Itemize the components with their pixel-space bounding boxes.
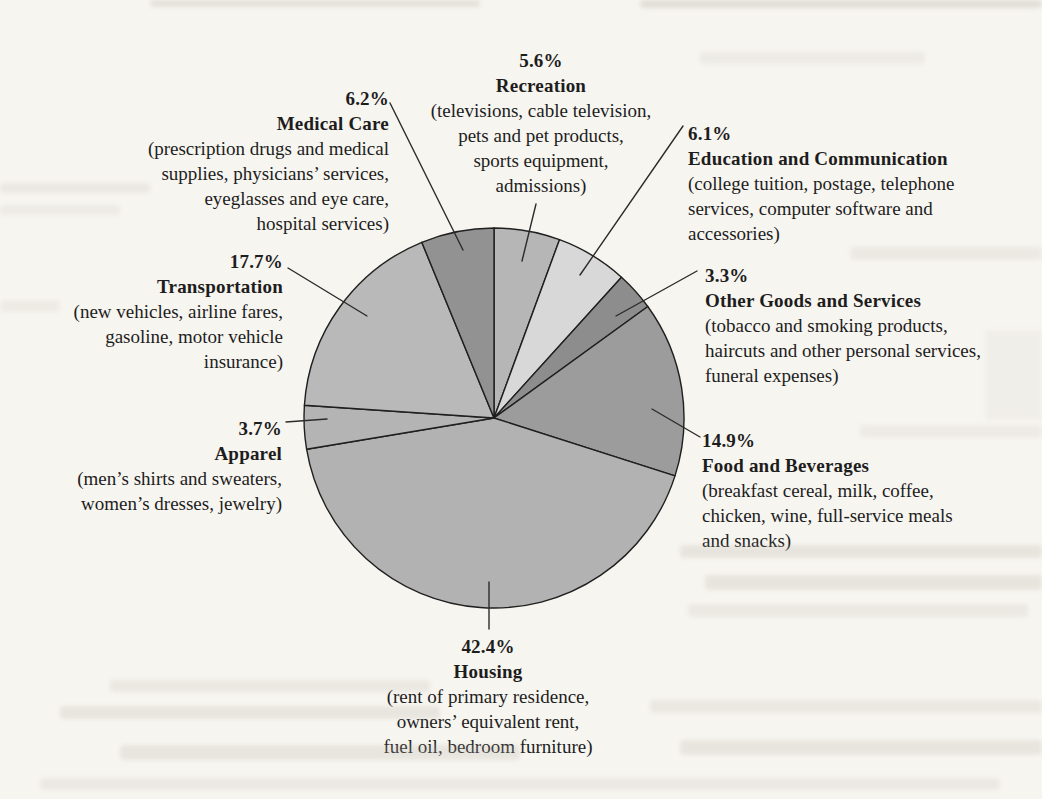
slice-detail-line: pets and pet products, <box>391 123 691 148</box>
slice-name: Transportation <box>23 274 283 299</box>
slice-detail-line: accessories) <box>688 221 1033 246</box>
slice-name: Housing <box>338 659 638 684</box>
slice-detail-line: (breakfast cereal, milk, coffee, <box>702 478 1042 503</box>
slice-detail-line: haircuts and other personal services, <box>705 338 1042 363</box>
slice-detail-line: (men’s shirts and sweaters, <box>22 466 282 491</box>
slice-detail-line: (televisions, cable television, <box>391 98 691 123</box>
slice-name: Medical Care <box>109 111 389 136</box>
scanned-textbook-figure: 5.6% Recreation (televisions, cable tele… <box>0 0 1042 799</box>
slice-detail-line: admissions) <box>391 173 691 198</box>
slice-percentage: 6.1% <box>688 121 1033 146</box>
slice-label-other-goods-and-services: 3.3% Other Goods and Services (tobacco a… <box>705 263 1042 388</box>
slice-detail-line: chicken, wine, full-service meals <box>702 503 1042 528</box>
slice-detail-line: supplies, physicians’ services, <box>109 161 389 186</box>
slice-detail-line: funeral expenses) <box>705 363 1042 388</box>
slice-detail-line: and snacks) <box>702 528 1042 553</box>
slice-detail-line: (rent of primary residence, <box>338 684 638 709</box>
slice-label-apparel: 3.7% Apparel (men’s shirts and sweaters,… <box>22 416 282 516</box>
slice-percentage: 42.4% <box>338 634 638 659</box>
slice-name: Recreation <box>391 73 691 98</box>
slice-detail-line: (tobacco and smoking products, <box>705 313 1042 338</box>
slice-name: Food and Beverages <box>702 453 1042 478</box>
slice-name: Education and Communication <box>688 146 1033 171</box>
slice-detail-line: fuel oil, bedroom furniture) <box>338 734 638 759</box>
slice-percentage: 3.7% <box>22 416 282 441</box>
slice-label-medical-care: 6.2% Medical Care (prescription drugs an… <box>109 86 389 236</box>
slice-detail-line: (new vehicles, airline fares, <box>23 299 283 324</box>
slice-detail-line: services, computer software and <box>688 196 1033 221</box>
slice-percentage: 17.7% <box>23 249 283 274</box>
slice-name: Other Goods and Services <box>705 288 1042 313</box>
slice-detail-line: gasoline, motor vehicle <box>23 324 283 349</box>
slice-detail-line: eyeglasses and eye care, <box>109 186 389 211</box>
slice-label-transportation: 17.7% Transportation (new vehicles, airl… <box>23 249 283 374</box>
slice-percentage: 14.9% <box>702 428 1042 453</box>
slice-detail-line: insurance) <box>23 349 283 374</box>
slice-label-food-and-beverages: 14.9% Food and Beverages (breakfast cere… <box>702 428 1042 553</box>
slice-detail-line: hospital services) <box>109 211 389 236</box>
slice-percentage: 6.2% <box>109 86 389 111</box>
slice-label-education-and-communication: 6.1% Education and Communication (colleg… <box>688 121 1033 246</box>
slice-label-housing: 42.4% Housing (rent of primary residence… <box>338 634 638 759</box>
slice-percentage: 5.6% <box>391 48 691 73</box>
slice-detail-line: women’s dresses, jewelry) <box>22 491 282 516</box>
slice-detail-line: sports equipment, <box>391 148 691 173</box>
slice-detail-line: (college tuition, postage, telephone <box>688 171 1033 196</box>
slice-percentage: 3.3% <box>705 263 1042 288</box>
slice-label-recreation: 5.6% Recreation (televisions, cable tele… <box>391 48 691 198</box>
slice-detail-line: owners’ equivalent rent, <box>338 709 638 734</box>
slice-name: Apparel <box>22 441 282 466</box>
slice-detail-line: (prescription drugs and medical <box>109 136 389 161</box>
